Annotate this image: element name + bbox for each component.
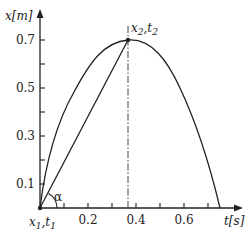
- y-tick-label: 0.1: [16, 177, 35, 191]
- y-tick-label: 0.3: [16, 129, 35, 143]
- trajectory-curve: [40, 40, 220, 208]
- y-tick-label: 0.7: [16, 33, 35, 47]
- x-ticks: [64, 203, 208, 208]
- start-point: [38, 206, 42, 210]
- y-axis-label: x[m]: [5, 9, 33, 23]
- x-axis-label: t[s]: [224, 214, 245, 228]
- peak-point-label: x2,t2: [131, 21, 158, 37]
- x-axis-arrow-icon: [234, 205, 243, 212]
- y-ticks: [40, 40, 45, 184]
- peak-point: [126, 38, 130, 42]
- axes: [40, 16, 236, 208]
- y-axis-arrow-icon: [37, 9, 44, 18]
- x-tick-label: 0.4: [126, 213, 145, 227]
- motion-diagram: 0.7 0.5 0.3 0.1 0.2 0.4 0.6 x[m] t[s] α …: [0, 0, 251, 235]
- start-point-label: x1,t1: [29, 215, 56, 231]
- x-tick-label: 0.2: [78, 213, 97, 227]
- secant-line: [40, 40, 128, 208]
- alpha-label: α: [54, 190, 62, 204]
- x-tick-label: 0.6: [174, 213, 193, 227]
- y-tick-label: 0.5: [16, 81, 35, 95]
